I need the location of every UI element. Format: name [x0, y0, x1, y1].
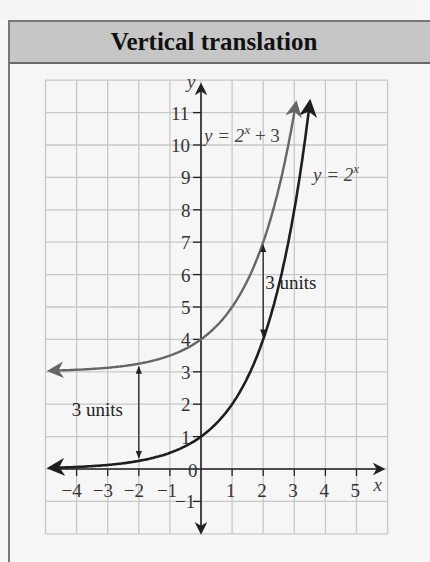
- y-tick-label: −1: [175, 491, 195, 512]
- label-2-to-x: y = 2x: [311, 161, 359, 185]
- x-tick-label: 0: [188, 460, 198, 481]
- y-tick-label: 11: [171, 103, 189, 124]
- y-tick-label: 10: [171, 135, 190, 156]
- y-tick-label: 2: [181, 394, 191, 415]
- y-axis-label: y: [185, 71, 196, 92]
- x-tick-label: 3: [288, 480, 298, 501]
- y-tick-label: 3: [181, 362, 191, 383]
- y-tick-label: 5: [181, 297, 191, 318]
- y-tick-label: 9: [181, 167, 191, 188]
- x-tick-label: −2: [124, 480, 144, 501]
- y-tick-label: 6: [181, 265, 191, 286]
- x-tick-label: 2: [257, 480, 267, 501]
- y-tick-label: 7: [181, 232, 191, 253]
- three-units-label: 3 units: [265, 272, 316, 293]
- y-tick-label: 8: [181, 200, 191, 221]
- annotations: 3 units3 units: [72, 245, 317, 458]
- three-units-label: 3 units: [72, 399, 123, 420]
- x-tick-label: 5: [351, 480, 361, 501]
- x-tick-label: −3: [93, 480, 113, 501]
- x-tick-label: 1: [226, 480, 236, 501]
- x-tick-label: 4: [319, 480, 329, 501]
- x-tick-label: −4: [62, 480, 83, 501]
- x-axis-label: x: [373, 474, 383, 495]
- label-2-to-x-plus-3: y = 2x + 3: [202, 122, 280, 146]
